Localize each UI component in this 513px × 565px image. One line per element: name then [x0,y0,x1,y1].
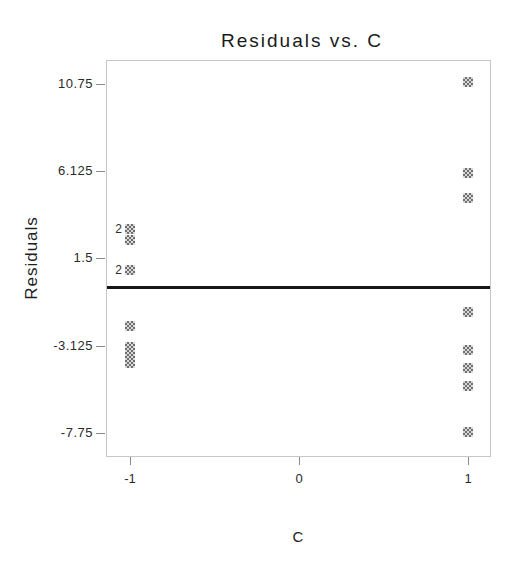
data-point-marker [463,193,473,203]
y-axis-tick [96,171,105,172]
x-axis-tick-label: 0 [295,472,302,486]
x-axis-tick-label: -1 [124,472,136,486]
data-point-marker [125,358,135,368]
y-axis-tick [96,84,105,85]
y-axis-tick [96,346,105,347]
residuals-vs-c-chart: Residuals vs. C Residuals C 10.756.1251.… [0,0,513,565]
y-axis-tick-label: -7.75 [38,426,93,440]
data-point-marker [125,224,135,234]
x-axis-tick [299,457,300,465]
data-point-marker [463,363,473,373]
data-point-marker [463,307,473,317]
y-axis-tick-label: 6.125 [38,164,93,178]
overlap-count-label: 2 [108,221,122,237]
y-axis-tick [96,258,105,259]
data-point-marker [125,265,135,275]
data-point-marker [463,168,473,178]
data-point-marker [125,235,135,245]
y-axis-tick-label: 10.75 [38,77,93,91]
chart-title: Residuals vs. C [221,30,383,52]
x-axis-tick [468,457,469,465]
data-point-marker [125,321,135,331]
y-axis-tick [96,433,105,434]
x-axis-title: C [293,528,304,545]
overlap-count-label: 2 [108,262,122,278]
data-point-marker [463,381,473,391]
y-axis-tick-label: 1.5 [38,251,93,265]
data-point-marker [463,77,473,87]
data-point-marker [463,345,473,355]
data-point-marker [463,427,473,437]
x-axis-tick-label: 1 [464,472,471,486]
x-axis-tick [130,457,131,465]
y-axis-tick-label: -3.125 [38,339,93,353]
zero-reference-line [107,286,490,289]
plot-area [106,60,491,457]
